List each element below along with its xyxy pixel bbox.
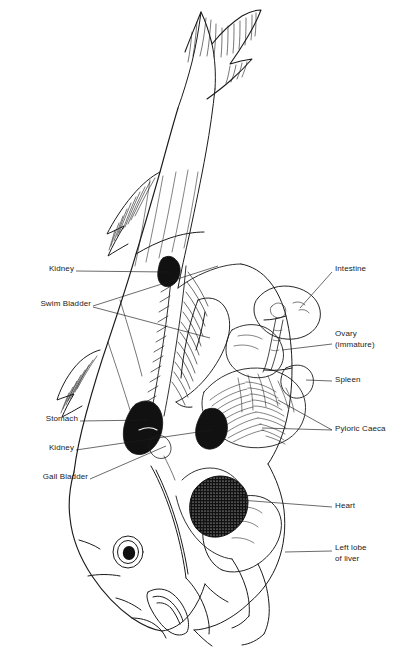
label-swim-bladder: Swim Bladder <box>0 299 91 309</box>
label-left-lobe-of-liver-line2: of liver <box>335 554 359 564</box>
eye <box>123 546 135 560</box>
label-heart: Heart <box>335 501 355 511</box>
label-intestine: Intestine <box>335 264 366 274</box>
label-kidney-lower: Kidney <box>0 443 74 453</box>
label-ovary-line2: (immature) <box>335 340 375 350</box>
label-pyloric-caeca: Pyloric Caeca <box>335 424 386 434</box>
label-gall-bladder: Gall Bladder <box>0 472 88 482</box>
label-ovary-line1: Ovary <box>335 329 357 339</box>
label-stomach: Stomach <box>0 414 78 424</box>
label-kidney-upper: Kidney <box>0 264 74 274</box>
label-left-lobe-of-liver-line1: Left lobe <box>335 543 367 553</box>
label-spleen: Spleen <box>335 375 361 385</box>
